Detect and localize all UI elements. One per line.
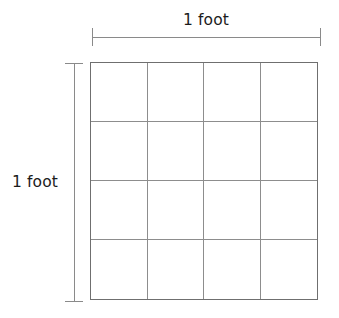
- grid-cell: [204, 122, 261, 181]
- grid-cell: [148, 122, 205, 181]
- grid-cell: [204, 181, 261, 240]
- top-dimension-line: [92, 37, 320, 38]
- grid-cell: [148, 63, 205, 122]
- grid-cell: [261, 240, 318, 299]
- grid-cell: [91, 63, 148, 122]
- grid-cell: [204, 63, 261, 122]
- grid-cell: [148, 240, 205, 299]
- grid-cell: [91, 181, 148, 240]
- grid-cell: [261, 63, 318, 122]
- top-dimension-tick-right: [320, 28, 321, 46]
- grid-cell: [261, 181, 318, 240]
- square-foot-diagram: 1 foot 1 foot: [0, 0, 339, 318]
- left-dimension-label: 1 foot: [2, 172, 68, 192]
- grid-cell: [91, 122, 148, 181]
- top-dimension-label: 1 foot: [92, 10, 320, 30]
- grid-cell: [91, 240, 148, 299]
- grid-cell: [148, 181, 205, 240]
- grid-cell: [204, 240, 261, 299]
- left-dimension-tick-bottom: [65, 301, 83, 302]
- grid-cell: [261, 122, 318, 181]
- grid-square: [90, 62, 318, 300]
- left-dimension-line: [74, 63, 75, 301]
